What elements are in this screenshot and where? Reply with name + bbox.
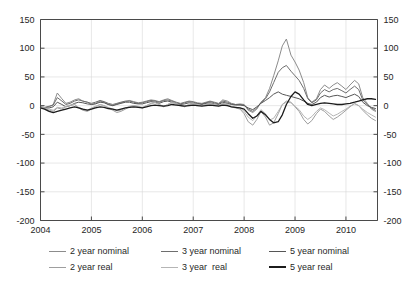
x-axis-tick-label: 2004 xyxy=(30,225,50,235)
y-axis-right-tick-label: -100 xyxy=(384,158,402,168)
legend-label-3-year-nominal: 3 year nominal xyxy=(182,246,241,257)
x-axis-tick-label: 2007 xyxy=(183,225,203,235)
legend-swatch-2-year-nominal xyxy=(49,251,66,252)
legend-swatch-3-year-real xyxy=(161,267,178,268)
legend-item-2-year-nominal[interactable]: 2 year nominal xyxy=(49,246,161,257)
chart-legend: 2 year nominal 3 year nominal 5 year nom… xyxy=(0,243,418,281)
legend-item-5-year-real[interactable]: 5 year real xyxy=(269,262,369,273)
y-axis-left-tick-label: 100 xyxy=(19,43,34,53)
y-axis-left-tick-label: -50 xyxy=(21,130,34,140)
x-axis-tick-label: 2005 xyxy=(81,225,101,235)
x-axis-tick-label: 2006 xyxy=(132,225,152,235)
legend-item-5-year-nominal[interactable]: 5 year nominal xyxy=(269,246,369,257)
y-axis-right-tick-label: 50 xyxy=(384,72,394,82)
chart-container: 150150100100505000-50-50-100-100-150-150… xyxy=(0,0,418,281)
legend-label-5-year-nominal: 5 year nominal xyxy=(290,246,349,257)
series-5-year-nominal xyxy=(41,92,376,110)
y-axis-left-tick-label: 50 xyxy=(24,72,34,82)
y-axis-right-tick-label: 0 xyxy=(384,101,389,111)
line-chart-plot: 150150100100505000-50-50-100-100-150-150… xyxy=(0,0,418,281)
series-2-year-nominal xyxy=(41,39,376,113)
legend-swatch-5-year-real xyxy=(269,266,286,268)
legend-label-2-year-real: 2 year real xyxy=(70,262,113,273)
y-axis-left-tick-label: 150 xyxy=(19,15,34,25)
x-axis-tick-label: 2010 xyxy=(336,225,356,235)
legend-item-2-year-real[interactable]: 2 year real xyxy=(49,262,161,273)
y-axis-right-tick-label: -150 xyxy=(384,187,402,197)
y-axis-right-tick-label: -50 xyxy=(384,130,397,140)
legend-item-3-year-nominal[interactable]: 3 year nominal xyxy=(161,246,269,257)
y-axis-right-tick-label: -200 xyxy=(384,216,402,226)
legend-item-3-year-real[interactable]: 3 year real xyxy=(161,262,269,273)
legend-swatch-3-year-nominal xyxy=(161,251,178,252)
legend-label-5-year-real: 5 year real xyxy=(290,262,333,273)
legend-label-3-year-real: 3 year real xyxy=(182,262,227,273)
legend-label-2-year-nominal: 2 year nominal xyxy=(70,246,129,257)
x-axis-tick-label: 2009 xyxy=(285,225,305,235)
y-axis-right-tick-label: 100 xyxy=(384,43,399,53)
legend-row-real: 2 year real 3 year real 5 year real xyxy=(0,259,418,275)
y-axis-left-tick-label: 0 xyxy=(29,101,34,111)
legend-row-nominal: 2 year nominal 3 year nominal 5 year nom… xyxy=(0,243,418,259)
y-axis-right-tick-label: 150 xyxy=(384,15,399,25)
y-axis-left-tick-label: -100 xyxy=(16,158,34,168)
legend-swatch-2-year-real xyxy=(49,267,66,268)
series-5-year-real xyxy=(41,92,376,123)
legend-swatch-5-year-nominal xyxy=(269,251,286,252)
y-axis-left-tick-label: -150 xyxy=(16,187,34,197)
x-axis-tick-label: 2008 xyxy=(234,225,254,235)
